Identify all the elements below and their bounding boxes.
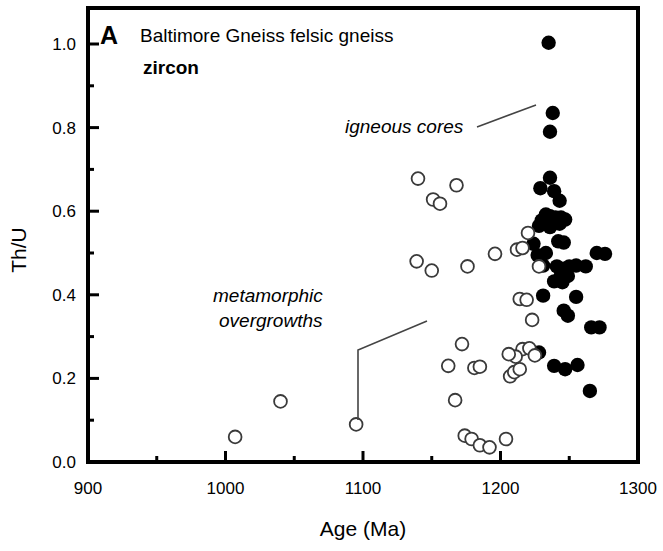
- data-point-metamorphic-overgrowth: [489, 247, 502, 260]
- data-point-metamorphic-overgrowth: [500, 433, 513, 446]
- igneous-cores-label: igneous cores: [345, 116, 464, 137]
- data-point-igneous-core: [583, 384, 597, 398]
- y-tick-label: 0.4: [52, 286, 76, 305]
- data-point-metamorphic-overgrowth: [450, 179, 463, 192]
- data-point-igneous-core: [598, 247, 612, 261]
- data-point-metamorphic-overgrowth: [483, 441, 496, 454]
- data-point-igneous-core: [557, 235, 571, 249]
- data-point-igneous-core: [579, 259, 593, 273]
- data-point-metamorphic-overgrowth: [516, 242, 529, 255]
- data-point-metamorphic-overgrowth: [412, 172, 425, 185]
- figure-title-line2: zircon: [143, 57, 199, 78]
- data-point-metamorphic-overgrowth: [425, 264, 438, 277]
- data-point-metamorphic-overgrowth: [456, 338, 469, 351]
- data-point-metamorphic-overgrowth: [350, 418, 363, 431]
- data-point-metamorphic-overgrowth: [274, 395, 287, 408]
- x-tick-label: 1200: [482, 479, 520, 498]
- x-axis-title: Age (Ma): [320, 517, 406, 540]
- data-point-metamorphic-overgrowth: [522, 227, 535, 240]
- data-point-igneous-core: [558, 362, 572, 376]
- data-point-igneous-core: [558, 212, 572, 226]
- igneous-cores-leader-line: [477, 105, 536, 127]
- data-point-metamorphic-overgrowth: [461, 260, 474, 273]
- figure-title-line1: Baltimore Gneiss felsic gneiss: [140, 25, 393, 46]
- y-tick-label: 0.2: [52, 369, 76, 388]
- data-point-igneous-core: [533, 181, 547, 195]
- data-point-metamorphic-overgrowth: [533, 260, 546, 273]
- y-axis-title: Th/U: [7, 227, 30, 273]
- y-tick-label: 0.0: [52, 453, 76, 472]
- metamorphic-overgrowths-line1-label: metamorphic: [213, 285, 323, 306]
- data-point-metamorphic-overgrowth: [449, 394, 462, 407]
- data-point-igneous-core: [536, 288, 550, 302]
- data-point-metamorphic-overgrowth: [442, 359, 455, 372]
- data-point-metamorphic-overgrowth: [513, 363, 526, 376]
- data-point-igneous-core: [592, 320, 606, 334]
- data-point-metamorphic-overgrowth: [502, 348, 515, 361]
- data-point-metamorphic-overgrowth: [520, 293, 533, 306]
- figure-root: 90010001100120013000.00.20.40.60.81.0Age…: [0, 0, 663, 551]
- data-point-igneous-core: [555, 275, 569, 289]
- y-tick-label: 0.6: [52, 202, 76, 221]
- data-point-igneous-core: [552, 194, 566, 208]
- metamorphic-overgrowths-line2-label: overgrowths: [219, 310, 323, 331]
- data-point-metamorphic-overgrowth: [410, 255, 423, 268]
- data-point-metamorphic-overgrowth: [229, 431, 242, 444]
- y-tick-label: 0.8: [52, 119, 76, 138]
- data-point-metamorphic-overgrowth: [473, 360, 486, 373]
- scatter-plot: 90010001100120013000.00.20.40.60.81.0Age…: [0, 0, 663, 551]
- data-point-igneous-core: [561, 309, 575, 323]
- data-point-igneous-core: [570, 358, 584, 372]
- y-tick-label: 1.0: [52, 35, 76, 54]
- data-point-metamorphic-overgrowth: [528, 349, 541, 362]
- metamorphic-overgrowths-line2-leader-line: [358, 321, 427, 420]
- x-tick-label: 1100: [345, 479, 382, 498]
- data-point-metamorphic-overgrowth: [526, 313, 539, 326]
- x-tick-label: 1000: [207, 479, 245, 498]
- data-point-metamorphic-overgrowth: [434, 197, 447, 210]
- x-tick-label: 1300: [619, 479, 657, 498]
- data-point-igneous-core: [543, 125, 557, 139]
- data-point-igneous-core: [569, 290, 583, 304]
- data-point-igneous-core: [546, 106, 560, 120]
- data-point-igneous-core: [541, 36, 555, 50]
- x-tick-label: 900: [74, 479, 102, 498]
- panel-label: A: [100, 21, 118, 49]
